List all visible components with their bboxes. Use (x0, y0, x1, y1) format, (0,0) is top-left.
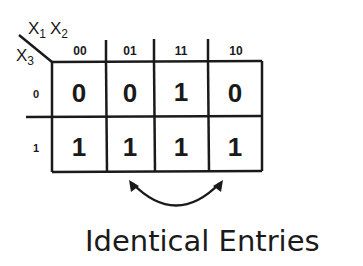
curved-arrow-icon (132, 183, 220, 206)
col-header-11: 11 (175, 44, 188, 58)
cell-r1-c00: 1 (72, 132, 86, 162)
col-header-00: 00 (73, 44, 87, 58)
cell-r0-c00: 0 (72, 78, 86, 108)
cell-r0-c10: 0 (228, 78, 242, 108)
row-header-0: 0 (33, 88, 39, 100)
cell-r1-c11: 1 (174, 132, 188, 162)
caption-identical-entries: Identical Entries (85, 224, 320, 258)
arrowhead-left-icon (129, 180, 139, 192)
col-var-2: X2 (50, 19, 68, 41)
cell-r1-c10: 1 (228, 132, 242, 162)
cell-r0-c11: 1 (174, 77, 188, 107)
col-var-1: X1 (28, 19, 46, 41)
kmap-grid (26, 61, 262, 172)
cell-r0-c01: 0 (123, 78, 137, 108)
cell-r1-c01: 1 (123, 132, 137, 162)
col-header-01: 01 (123, 44, 137, 58)
arrowhead-right-icon (213, 180, 223, 192)
row-header-1: 1 (33, 142, 39, 154)
karnaugh-map-diagram: X1 X2 X3 00 01 11 10 0 1 0 0 1 0 1 1 1 1… (0, 0, 363, 266)
row-var: X3 (16, 46, 34, 68)
col-header-10: 10 (229, 44, 243, 58)
